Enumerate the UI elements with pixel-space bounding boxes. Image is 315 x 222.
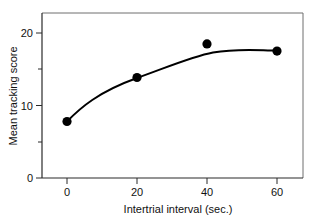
data-point-marker <box>62 117 71 126</box>
x-tick-label-60: 60 <box>271 186 283 198</box>
y-tick-label-10: 10 <box>21 100 33 112</box>
scatter-plot-svg: 20 10 0 0 20 40 60 Intertrial interval (… <box>0 0 315 222</box>
x-tick-label-20: 20 <box>131 186 143 198</box>
x-tick-label-0: 0 <box>64 186 70 198</box>
data-point-marker <box>202 39 211 48</box>
y-axis-title: Mean tracking score <box>7 46 19 145</box>
figure-background <box>0 0 315 222</box>
x-axis-title: Intertrial interval (sec.) <box>124 203 233 215</box>
data-point-marker <box>132 73 141 82</box>
y-tick-label-20: 20 <box>21 27 33 39</box>
x-tick-label-40: 40 <box>201 186 213 198</box>
y-tick-label-0: 0 <box>27 172 33 184</box>
data-point-marker <box>272 47 281 56</box>
chart-figure: 20 10 0 0 20 40 60 Intertrial interval (… <box>0 0 315 222</box>
